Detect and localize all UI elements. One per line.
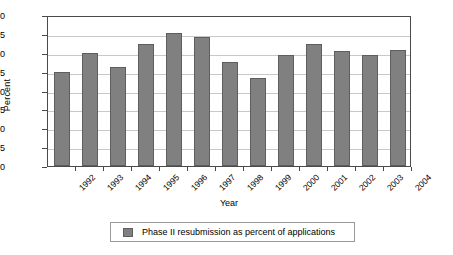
x-axis-tick-mark — [355, 167, 356, 171]
x-axis-tick-label: 1994 — [134, 173, 154, 193]
y-axis-tick-label: 15 — [0, 106, 5, 115]
plot-area — [47, 16, 411, 167]
x-axis-tick-label: 1999 — [274, 173, 294, 193]
bar — [166, 33, 182, 166]
x-axis-tick-label: 1995 — [162, 173, 182, 193]
x-axis-tick-mark — [411, 167, 412, 171]
bar — [110, 67, 126, 166]
y-axis-tick-mark — [42, 167, 47, 168]
x-axis-tick-mark — [131, 167, 132, 171]
bar — [222, 62, 238, 166]
y-axis-tick-label: 40 — [0, 12, 5, 21]
y-axis-tick-label: 0 — [0, 163, 5, 172]
x-axis-tick-mark — [75, 167, 76, 171]
x-axis-tick-label: 1993 — [106, 173, 126, 193]
y-axis-tick-label: 25 — [0, 69, 5, 78]
bar — [194, 37, 210, 166]
bar — [390, 50, 406, 166]
chart-legend: Phase II resubmission as percent of appl… — [110, 222, 355, 242]
x-axis-tick-mark — [299, 167, 300, 171]
x-axis-title: Year — [47, 198, 411, 208]
legend-swatch-icon — [123, 228, 133, 237]
x-axis-tick-mark — [243, 167, 244, 171]
x-axis-tick-label: 1996 — [190, 173, 210, 193]
x-axis-tick-label: 2000 — [302, 173, 322, 193]
x-axis-tick-mark — [215, 167, 216, 171]
x-axis-tick-mark — [383, 167, 384, 171]
legend-label: Phase II resubmission as percent of appl… — [142, 227, 335, 237]
x-axis-tick-mark — [271, 167, 272, 171]
x-axis-tick-label: 1992 — [78, 173, 98, 193]
y-axis-tick-label: 30 — [0, 50, 5, 59]
x-axis-tick-mark — [327, 167, 328, 171]
bar — [278, 55, 294, 166]
bar-chart-figure: Percent 0510152025303540 199219931994199… — [0, 0, 453, 255]
x-axis-tick-label: 2003 — [386, 173, 406, 193]
x-axis-tick-label: 2002 — [358, 173, 378, 193]
bar — [334, 51, 350, 166]
gridline — [48, 55, 410, 56]
x-axis-tick-mark — [159, 167, 160, 171]
x-axis-tick-mark — [187, 167, 188, 171]
x-axis-tick-label: 1998 — [246, 173, 266, 193]
x-axis-tick-label: 2004 — [414, 173, 434, 193]
x-axis-tick-label: 2001 — [330, 173, 350, 193]
y-axis-tick-label: 10 — [0, 125, 5, 134]
bar — [362, 55, 378, 166]
bar — [306, 44, 322, 166]
y-axis-tick-label: 35 — [0, 31, 5, 40]
bar — [54, 72, 70, 166]
gridline — [48, 36, 410, 37]
bar — [138, 44, 154, 166]
x-axis-tick-label: 1997 — [218, 173, 238, 193]
bar — [82, 53, 98, 166]
y-axis-tick-label: 20 — [0, 88, 5, 97]
bar — [250, 78, 266, 166]
x-axis-tick-mark — [103, 167, 104, 171]
y-axis-tick-label: 5 — [0, 144, 5, 153]
